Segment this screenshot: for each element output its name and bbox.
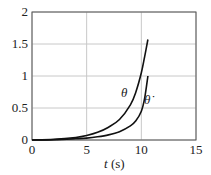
series-label-theta-dot: θ̇: [144, 92, 154, 107]
y-tick-label: 1: [22, 68, 29, 83]
grid-lines: [32, 12, 196, 140]
y-tick-label: 1.5: [12, 36, 28, 51]
y-tick-label: 0.5: [12, 100, 28, 115]
series-label-theta: θ: [121, 85, 128, 100]
x-tick-label: 5: [83, 142, 90, 157]
x-tick-label: 0: [29, 142, 36, 157]
data-series: [32, 40, 148, 140]
tick-labels: 05101500.511.52: [12, 4, 203, 157]
x-axis-label: t (s): [104, 156, 125, 171]
x-tick-label: 10: [135, 142, 148, 157]
chart: 05101500.511.52 θ θ̇ t (s): [0, 0, 211, 175]
x-tick-label: 15: [190, 142, 203, 157]
y-tick-label: 0: [22, 132, 29, 147]
y-tick-label: 2: [22, 4, 29, 19]
